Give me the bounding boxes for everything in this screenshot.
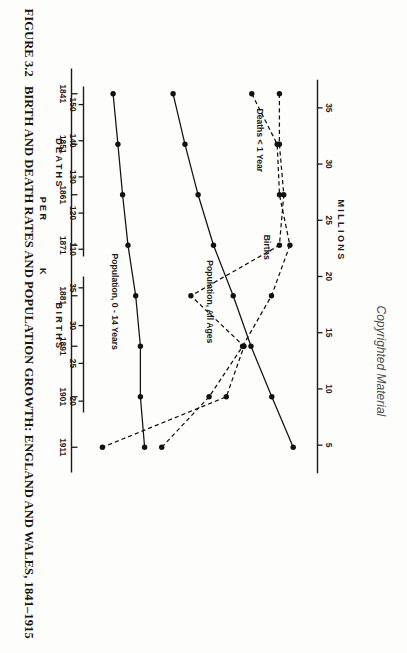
data-point xyxy=(137,343,142,348)
births-tick-label: 30 xyxy=(67,320,77,330)
millions-tick-label: 15 xyxy=(323,328,333,338)
data-point xyxy=(133,293,138,298)
series-label: Population, 0 - 14 Years xyxy=(109,253,119,350)
data-point xyxy=(230,293,235,298)
chart-svg: 1841185118611871188118911901191135302520… xyxy=(63,60,321,490)
deaths-tick-label: 130 xyxy=(67,169,77,183)
year-tick-label: 1911 xyxy=(57,438,67,457)
year-axis: 18411851186118711881189119011911 xyxy=(57,68,77,472)
data-point xyxy=(287,242,292,247)
series-label: Population, All Ages xyxy=(205,260,215,343)
data-point xyxy=(249,91,254,96)
millions-tick-label: 25 xyxy=(323,215,333,225)
births-axis-subtitle: K xyxy=(37,268,47,277)
data-point xyxy=(210,242,215,247)
births-axis-title: BIRTHS xyxy=(53,302,63,350)
copyright-notice: Copyrighted Material xyxy=(373,305,387,416)
figure-caption: FIGURE 3.2BIRTH AND DEATH RATES AND POPU… xyxy=(20,8,35,638)
data-point xyxy=(182,141,187,146)
figure-number: FIGURE 3.2 xyxy=(21,8,35,76)
data-point xyxy=(248,343,253,348)
data-point xyxy=(99,444,104,449)
figure-title: BIRTH AND DEATH RATES AND POPULATION GRO… xyxy=(21,85,35,638)
data-point xyxy=(269,394,274,399)
millions-axis-title: MILLIONS xyxy=(335,199,345,261)
data-point xyxy=(137,394,142,399)
deaths-axis-subtitle: PER xyxy=(37,196,47,222)
figure-stage: FIGURE 3.2BIRTH AND DEATH RATES AND POPU… xyxy=(0,0,407,653)
millions-tick-label: 10 xyxy=(323,384,333,394)
data-point xyxy=(206,394,211,399)
deaths-tick-label: 120 xyxy=(67,206,77,220)
series-label: Deaths < 1 Year xyxy=(255,108,265,172)
data-point xyxy=(276,91,281,96)
series-2: Population, 0 - 14 Years xyxy=(109,91,147,450)
millions-tick-label: 5 xyxy=(323,442,333,447)
year-tick-label: 1901 xyxy=(57,387,67,406)
series-label: Births xyxy=(261,234,271,259)
deaths-tick-label: 110 xyxy=(67,242,77,256)
millions-tick-label: 30 xyxy=(323,159,333,169)
data-point xyxy=(119,192,124,197)
births-tick-label: 25 xyxy=(67,358,77,368)
deaths-axis: 150140130120110DEATHSPER xyxy=(37,86,83,256)
data-point xyxy=(115,141,120,146)
millions-tick-label: 35 xyxy=(323,103,333,113)
year-tick-label: 1871 xyxy=(57,235,67,254)
series-line xyxy=(173,93,293,447)
data-point xyxy=(110,91,115,96)
chart-plot-area: 1841185118611871188118911901191135302520… xyxy=(63,60,321,490)
millions-axis: 3530252015105MILLIONS xyxy=(317,79,345,473)
data-point xyxy=(195,192,200,197)
millions-tick-label: 20 xyxy=(323,271,333,281)
data-point xyxy=(276,192,281,197)
data-point xyxy=(141,444,146,449)
data-point xyxy=(290,444,295,449)
deaths-tick-label: 140 xyxy=(67,133,77,147)
data-point xyxy=(125,242,130,247)
deaths-axis-title: DEATHS xyxy=(53,138,63,189)
data-point xyxy=(170,91,175,96)
year-tick-label: 1841 xyxy=(57,84,67,103)
data-point xyxy=(188,293,193,298)
deaths-tick-label: 150 xyxy=(67,97,77,111)
series-3: Deaths < 1 Year xyxy=(99,91,286,450)
births-tick-label: 35 xyxy=(67,283,77,293)
births-tick-label: 20 xyxy=(67,396,77,406)
